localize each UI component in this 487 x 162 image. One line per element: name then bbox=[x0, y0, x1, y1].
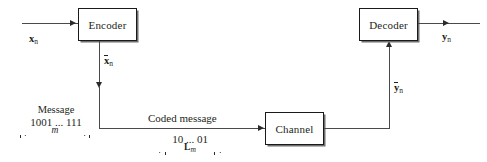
coded-length-label: Lm bbox=[159, 143, 221, 152]
input-signal-label: xn bbox=[29, 34, 38, 45]
encoded-signal-label: xn bbox=[104, 56, 113, 67]
block-channel-label: Channel bbox=[275, 123, 313, 135]
block-encoder-label: Encoder bbox=[88, 19, 126, 31]
output-signal-line bbox=[418, 23, 480, 24]
coded-message-caption: Coded message bbox=[148, 113, 217, 124]
coded-message-arrowhead-icon bbox=[258, 125, 264, 131]
output-arrowhead-icon bbox=[443, 20, 449, 26]
output-signal-label: yn bbox=[442, 32, 451, 43]
coded-length-bracket: Lm bbox=[159, 146, 221, 155]
block-channel[interactable]: Channel bbox=[265, 112, 324, 145]
message-caption: Message bbox=[22, 105, 90, 116]
received-arrowhead-icon bbox=[386, 41, 392, 47]
message-length-bracket: m bbox=[20, 129, 90, 138]
block-encoder[interactable]: Encoder bbox=[78, 8, 137, 41]
received-signal-line-h bbox=[324, 128, 390, 129]
encoded-signal-line bbox=[99, 41, 100, 88]
input-arrowhead-icon bbox=[70, 20, 76, 26]
message-length-label: m bbox=[20, 126, 90, 135]
coded-message-line bbox=[99, 128, 265, 129]
encoded-signal-line-lower bbox=[99, 86, 100, 128]
block-decoder[interactable]: Decoder bbox=[359, 8, 418, 41]
coded-length-subscript: m bbox=[190, 145, 195, 154]
diagram-canvas: xn Encoder xn Message 1001 ... 111 m Cod… bbox=[0, 0, 487, 162]
block-decoder-label: Decoder bbox=[369, 19, 408, 31]
received-signal-line-v bbox=[389, 45, 390, 129]
received-signal-label: yn bbox=[394, 83, 403, 94]
